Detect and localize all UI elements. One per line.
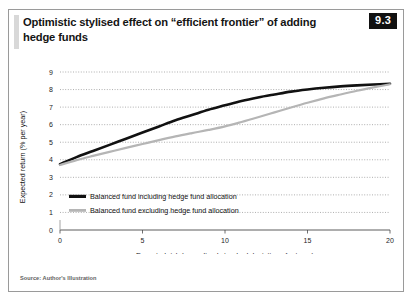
x-tick-label: 15 <box>304 237 312 244</box>
y-tick-label: 5 <box>49 139 53 146</box>
source-note: Source: Author's Illustration <box>20 275 97 281</box>
legend-label-2: Balanced fund excluding hedge fund alloc… <box>90 206 239 215</box>
x-axis-tick-labels: 05101520 <box>58 237 394 244</box>
line-chart: 0123456789 05101520 Balanced fund includ… <box>9 54 404 254</box>
x-tick-label: 10 <box>221 237 229 244</box>
y-tick-label: 3 <box>49 174 53 181</box>
y-tick-label: 6 <box>49 121 53 128</box>
y-tick-label: 9 <box>49 69 53 76</box>
y-axis-title: Expected return (% per year) <box>18 111 27 203</box>
figure-container: Optimistic stylised effect on “efficient… <box>8 9 404 292</box>
legend-label-1: Balanced fund including hedge fund alloc… <box>90 192 237 201</box>
axis-lines-group <box>60 220 390 234</box>
y-axis-tick-labels: 0123456789 <box>49 69 53 234</box>
page-title: Optimistic stylised effect on “efficient… <box>23 15 343 44</box>
x-tick-label: 0 <box>58 237 62 244</box>
figure-title-band: Optimistic stylised effect on “efficient… <box>9 10 403 54</box>
chart-plot-area: 0123456789 05101520 Balanced fund includ… <box>9 54 404 254</box>
x-axis-title: Expected risk (annualised standard devia… <box>136 251 314 254</box>
y-tick-label: 8 <box>49 86 53 93</box>
y-tick-label: 0 <box>49 227 53 234</box>
y-tick-label: 1 <box>49 209 53 216</box>
chart-legend: Balanced fund including hedge fund alloc… <box>69 192 239 215</box>
x-tick-label: 5 <box>141 237 145 244</box>
y-tick-label: 2 <box>49 191 53 198</box>
x-tick-label: 20 <box>386 237 394 244</box>
y-tick-label: 7 <box>49 104 53 111</box>
figure-number-badge: 9.3 <box>369 13 397 29</box>
y-tick-label: 4 <box>49 156 53 163</box>
title-accent-bar <box>14 15 19 49</box>
